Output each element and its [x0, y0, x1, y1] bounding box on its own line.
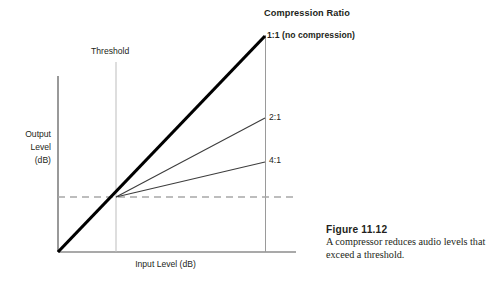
threshold-label: Threshold [91, 46, 129, 56]
curve-2-to-1 [116, 118, 265, 197]
figure-caption: Figure 11.12 A compressor reduces audio … [326, 224, 486, 261]
legend-title: Compression Ratio [264, 8, 350, 19]
x-axis-label: Input Level (dB) [78, 259, 253, 269]
y-axis-label: Output Level (dB) [0, 128, 51, 167]
series-label-4-to-1: 4:1 [269, 155, 281, 165]
figure-page: Compression Ratio 1:1 (no compression) 2… [0, 0, 491, 292]
figure-caption-body: A compressor reduces audio levels that e… [326, 236, 486, 261]
figure-caption-title: Figure 11.12 [326, 224, 486, 235]
series-label-1-to-1: 1:1 (no compression) [267, 30, 355, 40]
curve-1-to-1 [58, 36, 265, 252]
series-label-2-to-1: 2:1 [269, 112, 281, 122]
